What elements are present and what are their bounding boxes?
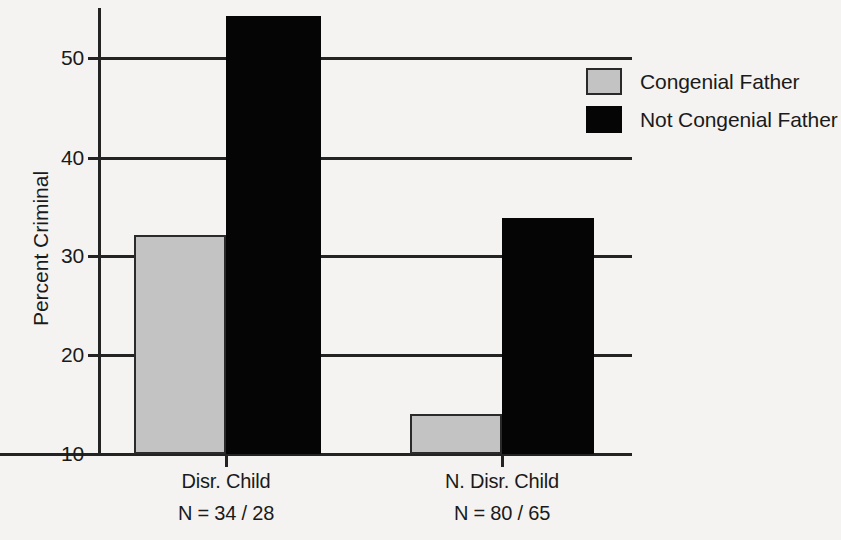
legend-item-not-congenial-father: Not Congenial Father bbox=[586, 100, 838, 138]
tick-mark-40 bbox=[88, 157, 100, 160]
category-sublabel-disr-child: N = 34 / 28 bbox=[126, 501, 326, 525]
gridline-40 bbox=[98, 157, 632, 160]
category-label-n-disr-child: N. Disr. Child bbox=[402, 469, 602, 493]
category-label-disr-child: Disr. Child bbox=[126, 469, 326, 493]
bar-n-disr-child-congenial-father bbox=[410, 414, 502, 454]
category-sublabel-n-disr-child: N = 80 / 65 bbox=[402, 501, 602, 525]
bar-n-disr-child-not-congenial-father bbox=[502, 218, 594, 454]
tick-mark-20 bbox=[88, 354, 100, 357]
legend-label-not-congenial-father: Not Congenial Father bbox=[640, 109, 838, 130]
legend-swatch-black-icon bbox=[586, 106, 622, 133]
category-tick-n-disr-child bbox=[501, 454, 504, 467]
legend-swatch-gray-icon bbox=[586, 68, 622, 95]
gridline-50 bbox=[98, 57, 632, 60]
legend-item-congenial-father: Congenial Father bbox=[586, 62, 838, 100]
tick-label-50-wrap: 50 bbox=[36, 47, 84, 68]
category-tick-disr-child bbox=[225, 454, 228, 467]
tick-mark-10 bbox=[88, 453, 100, 456]
tick-mark-30 bbox=[88, 255, 100, 258]
bar-disr-child-congenial-father bbox=[134, 235, 226, 454]
y-axis-line bbox=[98, 8, 101, 456]
chart-legend: Congenial Father Not Congenial Father bbox=[586, 62, 838, 138]
chart-figure: 50 40 30 20 10 Disr. Child N = 34 / 28 N… bbox=[0, 0, 841, 540]
y-axis-title: Percent Criminal bbox=[30, 149, 51, 349]
tick-label-10-wrap: 10 bbox=[36, 443, 84, 464]
tick-mark-50 bbox=[88, 57, 100, 60]
bar-disr-child-not-congenial-father bbox=[226, 16, 321, 454]
tick-label-50: 50 bbox=[44, 47, 84, 68]
legend-label-congenial-father: Congenial Father bbox=[640, 71, 800, 92]
tick-label-10: 10 bbox=[44, 443, 84, 464]
